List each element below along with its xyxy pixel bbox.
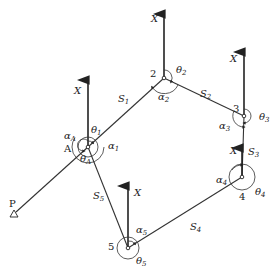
label-P: P bbox=[9, 198, 16, 209]
label-theta-4: θ4 bbox=[255, 186, 266, 199]
label-5: 5 bbox=[108, 241, 114, 252]
label-alpha-5: α5 bbox=[136, 224, 148, 237]
station-A-marker bbox=[86, 145, 90, 149]
label-S3: S3 bbox=[248, 146, 260, 159]
x-label-A: X bbox=[73, 85, 82, 96]
label-S5: S5 bbox=[93, 190, 105, 203]
label-theta-3: θ3 bbox=[259, 111, 270, 124]
label-S2: S2 bbox=[200, 88, 212, 101]
label-alpha-1: α1 bbox=[108, 140, 119, 153]
label-2: 2 bbox=[150, 68, 156, 79]
label-S4: S4 bbox=[190, 221, 201, 234]
arc-theta-A bbox=[78, 139, 88, 151]
label-alpha-4: α4 bbox=[216, 174, 227, 187]
label-alpha-3: α3 bbox=[219, 120, 231, 133]
x-label-4: X bbox=[229, 145, 238, 156]
label-A: A bbox=[63, 143, 72, 154]
label-alpha-A: αA bbox=[64, 130, 76, 143]
label-S1: S1 bbox=[118, 93, 129, 106]
station-4-marker bbox=[240, 175, 244, 179]
label-3: 3 bbox=[233, 103, 239, 114]
arc-alpha-5 bbox=[128, 241, 135, 244]
arc-alpha-2 bbox=[152, 85, 178, 94]
label-theta-A: θA bbox=[80, 153, 91, 166]
x-label-5: X bbox=[133, 187, 142, 198]
label-4: 4 bbox=[239, 191, 245, 202]
station-5-marker bbox=[126, 246, 130, 250]
side-S4 bbox=[128, 177, 242, 248]
label-theta-2: θ2 bbox=[176, 64, 187, 77]
station-3-marker bbox=[242, 114, 246, 118]
station-2-marker bbox=[162, 76, 166, 80]
label-theta-5: θ5 bbox=[136, 255, 147, 268]
label-theta-1: θ1 bbox=[91, 124, 102, 137]
x-label-2: X bbox=[150, 13, 159, 24]
line-P-A bbox=[16, 147, 88, 212]
traverse-diagram: X X X X X P A 2 3 4 5 S1 S2 S3 S4 S5 αA … bbox=[0, 0, 272, 269]
x-label-3: X bbox=[229, 53, 238, 64]
